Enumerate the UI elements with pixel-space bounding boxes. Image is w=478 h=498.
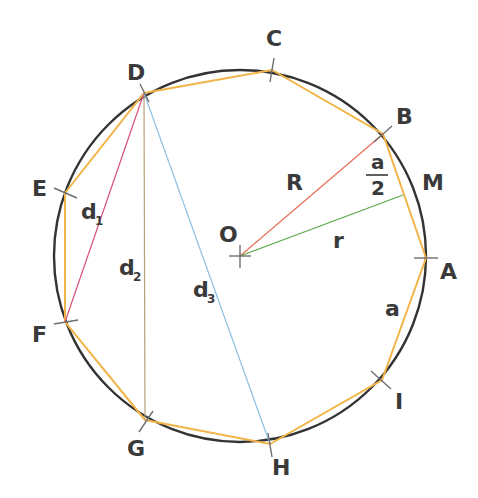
svg-text:3: 3	[207, 292, 215, 306]
radius-R-label: R	[286, 170, 303, 195]
vertex-label-E: E	[32, 176, 47, 201]
diagonal-d1-label: d 1	[81, 199, 103, 228]
svg-text:2: 2	[133, 270, 141, 284]
side-a-label: a	[385, 296, 400, 321]
fraction-numerator: a	[371, 150, 385, 174]
vertex-label-I: I	[395, 389, 403, 414]
midpoint-label-M: M	[422, 170, 444, 195]
vertex-label-D: D	[127, 60, 145, 85]
svg-text:1: 1	[95, 214, 103, 228]
vertex-label-B: B	[396, 104, 413, 129]
vertex-label-H: H	[272, 455, 290, 480]
fraction-denominator: 2	[371, 176, 385, 200]
vertex-label-G: G	[127, 436, 145, 461]
radius-R-line	[240, 134, 383, 256]
apothem-r-line	[240, 195, 403, 256]
vertex-label-F: F	[32, 322, 47, 347]
diagonal-d2-label: d 2	[119, 255, 141, 284]
vertex-label-C: C	[266, 26, 282, 51]
tick-H	[268, 433, 272, 457]
nonagon-diagram: A B C D E F G H I O M R r a a 2 d 1 d 2 …	[0, 0, 478, 498]
diagonal-d2-line	[144, 93, 145, 420]
vertex-ticks	[54, 58, 438, 457]
half-side-fraction: a 2	[366, 150, 388, 200]
apothem-r-label: r	[333, 228, 344, 253]
center-cross-icon	[229, 245, 251, 268]
vertex-label-A: A	[440, 259, 457, 284]
diagonal-d3-line	[144, 93, 270, 444]
center-label-O: O	[219, 222, 238, 247]
